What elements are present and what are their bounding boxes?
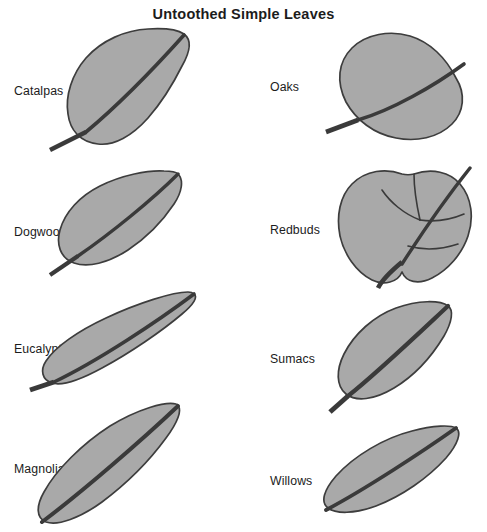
leaf-drawing-dogwoods [32,170,212,290]
leaf-identification-figure: Untoothed Simple Leaves Catalpas Dogwood… [0,0,487,532]
leaf-drawing-redbuds [324,168,487,293]
leaf-entry-willows: Willows [262,424,487,532]
oaks-petiole [326,120,358,132]
leaf-label-oaks: Oaks [270,80,299,94]
leaf-entry-eucalyptus: Eucalyptus [0,288,240,404]
eucalyptus-blade [43,292,196,384]
leaf-drawing-oaks [314,20,487,165]
leaf-entry-oaks: Oaks [262,20,487,165]
dogwoods-petiole [50,256,78,275]
redbuds-blade [339,171,472,283]
magnolias-blade [38,403,179,523]
leaf-drawing-eucalyptus [18,288,218,404]
sumacs-petiole [330,396,348,412]
leaf-entry-catalpas: Catalpas [0,26,240,166]
leaf-drawing-willows [314,424,487,532]
leaf-entry-redbuds: Redbuds [262,168,487,293]
eucalyptus-petiole [30,382,54,390]
oaks-blade [340,33,463,139]
leaf-entry-sumacs: Sumacs [262,296,487,421]
leaf-entry-magnolias: Magnolias [0,400,240,532]
catalpas-blade [67,29,189,145]
leaf-label-redbuds: Redbuds [270,223,320,237]
leaf-drawing-magnolias [30,400,210,532]
leaf-label-sumacs: Sumacs [270,352,315,366]
dogwoods-blade [59,171,182,265]
leaf-label-willows: Willows [270,474,312,488]
leaf-drawing-catalpas [32,26,212,166]
leaf-entry-dogwoods: Dogwoods [0,170,240,290]
leaf-drawing-sumacs [330,296,487,421]
catalpas-petiole [50,132,86,150]
